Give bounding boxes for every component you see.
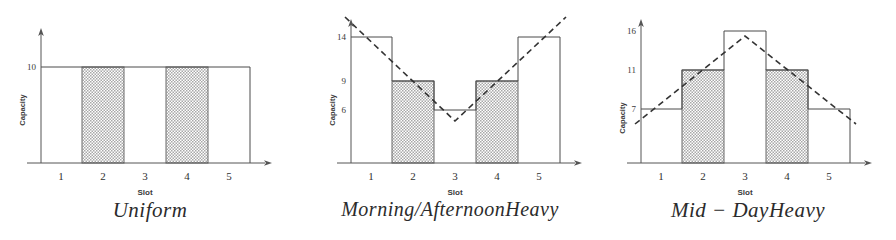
x-axis-arrow-icon <box>574 160 582 166</box>
x-tick-5: 5 <box>826 170 832 182</box>
bar-slot-4 <box>766 70 808 163</box>
x-axis-title: Slot <box>447 188 462 197</box>
y-tick-label-7: 7 <box>632 104 637 114</box>
x-tick-2: 2 <box>700 170 706 182</box>
chart-panel-mid-day-heavy: 16 11 7 Capacity 1 2 3 4 5 Slot Mid − Da… <box>600 0 896 240</box>
bar-slot-4 <box>166 67 208 163</box>
x-axis-title: Slot <box>137 188 152 197</box>
x-axis-title: Slot <box>737 188 752 197</box>
bar-slot-2 <box>82 67 124 163</box>
x-tick-1: 1 <box>368 170 374 182</box>
demand-trend-dashed-line <box>345 17 566 121</box>
capacity-step-outline <box>351 37 560 163</box>
x-tick-1: 1 <box>58 170 64 182</box>
x-tick-4: 4 <box>494 170 500 182</box>
x-axis-arrow-icon <box>264 160 272 166</box>
capacity-step-outline <box>41 67 250 163</box>
bar-slot-4 <box>476 81 518 163</box>
panel-caption-morning-afternoon-heavy: Morning/AfternoonHeavy <box>300 198 600 221</box>
panel-caption-mid-day-heavy: Mid − DayHeavy <box>600 198 896 223</box>
y-tick-label-6: 6 <box>342 105 347 115</box>
y-tick-label-11: 11 <box>627 65 636 75</box>
y-tick-label-16: 16 <box>627 26 637 36</box>
y-axis-title: Capacity <box>328 94 337 126</box>
chart-svg-uniform: 10 Capacity 1 2 3 4 5 Slot <box>0 0 300 200</box>
bar-slot-2 <box>682 70 724 163</box>
chart-svg-mid-day-heavy: 16 11 7 Capacity 1 2 3 4 5 Slot <box>600 0 896 200</box>
y-tick-label-14: 14 <box>337 32 347 42</box>
capacity-step-outline <box>641 31 850 163</box>
x-axis-arrow-icon <box>864 160 872 166</box>
figure-row: 10 Capacity 1 2 3 4 5 Slot Uniform <box>0 0 896 240</box>
y-axis-title: Capacity <box>18 94 27 126</box>
x-tick-4: 4 <box>784 170 790 182</box>
x-tick-1: 1 <box>658 170 664 182</box>
x-tick-2: 2 <box>100 170 106 182</box>
x-tick-3: 3 <box>742 170 748 182</box>
x-tick-3: 3 <box>142 170 148 182</box>
bar-slot-2 <box>392 81 434 163</box>
panel-caption-uniform: Uniform <box>0 198 300 223</box>
chart-panel-morning-afternoon-heavy: 14 9 6 Capacity 1 2 3 4 5 Slot Morning/A… <box>300 0 600 240</box>
y-tick-label: 10 <box>27 62 37 72</box>
chart-svg-morning-afternoon-heavy: 14 9 6 Capacity 1 2 3 4 5 Slot <box>300 0 600 200</box>
x-tick-5: 5 <box>536 170 542 182</box>
x-tick-2: 2 <box>410 170 416 182</box>
demand-trend-dashed-line <box>635 36 856 124</box>
x-tick-4: 4 <box>184 170 190 182</box>
x-tick-5: 5 <box>226 170 232 182</box>
y-tick-label-9: 9 <box>342 76 347 86</box>
chart-panel-uniform: 10 Capacity 1 2 3 4 5 Slot Uniform <box>0 0 300 240</box>
y-axis-title: Capacity <box>618 102 627 134</box>
x-tick-3: 3 <box>452 170 458 182</box>
